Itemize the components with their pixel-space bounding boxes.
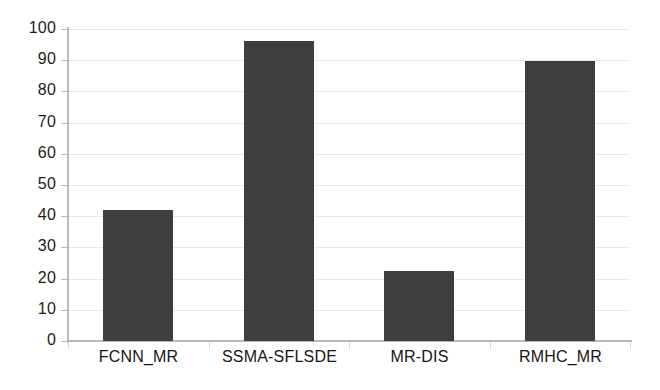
y-axis-tick-label: 50: [8, 176, 56, 192]
y-axis-tick-label: 80: [8, 82, 56, 98]
bar-chart: 0102030405060708090100 FCNN_MRSSMA-SFLSD…: [0, 0, 660, 390]
y-axis-tick-label: 90: [8, 51, 56, 67]
y-axis-tick-label: 30: [8, 238, 56, 254]
bar: [103, 210, 173, 341]
bar: [384, 271, 454, 341]
y-axis-tick-label: 60: [8, 145, 56, 161]
y-axis-line: [67, 27, 69, 343]
y-axis-tick-label: 100: [8, 20, 56, 36]
x-axis-category-label: MR-DIS: [349, 348, 490, 366]
y-axis-tick-label: 70: [8, 114, 56, 130]
x-axis-category-label: FCNN_MR: [68, 348, 209, 366]
y-axis-tick-label: 10: [8, 301, 56, 317]
y-axis-tick-label: 20: [8, 270, 56, 286]
bar: [244, 41, 314, 341]
bar: [525, 61, 595, 341]
x-axis-category-label: RMHC_MR: [490, 348, 631, 366]
gridline: [68, 29, 630, 30]
y-axis-tick-label: 40: [8, 207, 56, 223]
x-axis-category-label: SSMA-SFLSDE: [209, 348, 350, 366]
y-axis-tick-label: 0: [8, 332, 56, 348]
